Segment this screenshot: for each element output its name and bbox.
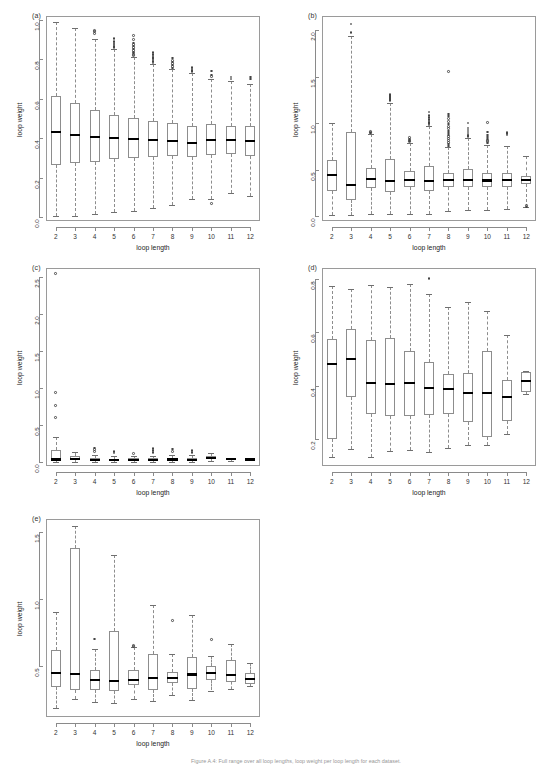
- x-axis-tick-label: 12: [516, 478, 536, 485]
- x-axis-tick: [351, 227, 352, 231]
- x-axis-tick: [172, 472, 173, 476]
- y-axis-tick-label: 0.0: [309, 216, 316, 230]
- whisker-upper: [429, 294, 430, 361]
- y-axis-tick: [39, 666, 43, 667]
- whisker-cap-upper: [445, 147, 451, 148]
- y-axis-tick-label: 2.5: [33, 276, 40, 290]
- whisker-lower: [390, 192, 391, 214]
- whisker-upper: [172, 654, 173, 672]
- whisker-cap-upper: [189, 615, 195, 616]
- whisker-cap-lower: [92, 702, 98, 703]
- x-axis-tick: [75, 723, 76, 727]
- whisker-cap-lower: [247, 686, 253, 687]
- whisker-lower: [448, 187, 449, 210]
- box-iqr[interactable]: [385, 338, 395, 416]
- box-iqr[interactable]: [226, 660, 236, 682]
- x-axis-tick: [250, 723, 251, 727]
- box-iqr[interactable]: [70, 548, 80, 690]
- x-axis-tick-label: 5: [380, 233, 400, 240]
- box-iqr[interactable]: [463, 373, 473, 422]
- box-iqr[interactable]: [443, 374, 453, 414]
- y-axis-tick: [39, 20, 43, 21]
- outlier-point: [486, 121, 489, 124]
- box-iqr[interactable]: [128, 670, 138, 685]
- y-axis-tick: [39, 462, 43, 463]
- whisker-cap-upper: [53, 437, 59, 438]
- whisker-lower: [429, 415, 430, 452]
- median-line: [482, 392, 492, 394]
- outlier-point: [132, 644, 135, 647]
- x-axis-tick: [231, 472, 232, 476]
- whisker-cap-lower: [131, 699, 137, 700]
- x-axis-tick: [231, 227, 232, 231]
- whisker-cap-upper: [523, 156, 529, 157]
- x-axis-tick: [468, 227, 469, 231]
- median-line: [167, 677, 177, 679]
- whisker-cap-lower: [131, 211, 137, 212]
- box-iqr[interactable]: [346, 132, 356, 200]
- median-line: [404, 179, 414, 181]
- y-axis-tick: [39, 599, 43, 600]
- whisker-lower: [468, 187, 469, 211]
- x-axis-tick-label: 8: [162, 478, 182, 485]
- whisker-cap-upper: [169, 69, 175, 70]
- whisker-cap-lower: [228, 193, 234, 194]
- whisker-cap-lower: [465, 210, 471, 211]
- whisker-lower: [468, 422, 469, 445]
- median-line: [424, 387, 434, 389]
- whisker-cap-lower: [92, 462, 98, 463]
- median-line: [51, 672, 61, 674]
- median-line: [206, 457, 216, 459]
- whisker-cap-upper: [504, 335, 510, 336]
- x-axis-tick-label: 11: [497, 233, 517, 240]
- whisker-cap-lower: [208, 461, 214, 462]
- median-line: [463, 179, 473, 181]
- whisker-upper: [526, 156, 527, 177]
- whisker-cap-upper: [150, 64, 156, 65]
- x-axis-tick-label: 9: [182, 478, 202, 485]
- whisker-lower: [114, 159, 115, 212]
- whisker-lower: [153, 157, 154, 208]
- x-axis-tick-label: 3: [65, 478, 85, 485]
- whisker-lower: [95, 162, 96, 214]
- whisker-upper: [153, 64, 154, 121]
- outlier-point: [171, 450, 174, 453]
- whisker-upper: [507, 335, 508, 379]
- whisker-cap-upper: [53, 22, 59, 23]
- x-axis-tick: [448, 227, 449, 231]
- whisker-cap-lower: [189, 700, 195, 701]
- x-axis-tick-label: 3: [341, 478, 361, 485]
- box-iqr[interactable]: [385, 159, 395, 193]
- box-iqr[interactable]: [463, 169, 473, 186]
- whisker-upper: [56, 612, 57, 650]
- median-line: [109, 459, 119, 461]
- y-axis-tick: [39, 532, 43, 533]
- box-iqr[interactable]: [148, 654, 158, 690]
- x-axis-tick: [390, 227, 391, 231]
- outlier-point: [486, 138, 489, 141]
- x-axis-tick-label: 10: [201, 478, 221, 485]
- box-iqr[interactable]: [327, 339, 337, 438]
- median-line: [70, 673, 80, 675]
- x-axis-tick: [250, 472, 251, 476]
- box-iqr[interactable]: [366, 340, 376, 415]
- y-axis-tick-label: 0.4: [33, 138, 40, 152]
- outlier-point: [54, 416, 57, 419]
- box-iqr[interactable]: [502, 380, 512, 421]
- outlier-point: [210, 202, 213, 205]
- whisker-upper: [487, 145, 488, 173]
- whisker-cap-upper: [72, 452, 78, 453]
- box-iqr[interactable]: [424, 166, 434, 191]
- x-axis-tick: [351, 472, 352, 476]
- box-iqr[interactable]: [51, 650, 61, 687]
- median-line: [51, 458, 61, 460]
- whisker-cap-upper: [150, 605, 156, 606]
- outlier-point: [447, 127, 450, 130]
- median-line: [443, 388, 453, 390]
- x-axis-tick-label: 8: [162, 233, 182, 240]
- whisker-upper: [75, 526, 76, 548]
- box-iqr[interactable]: [346, 329, 356, 397]
- x-axis-tick: [390, 472, 391, 476]
- median-line: [366, 178, 376, 180]
- x-axis-tick-label: 3: [65, 729, 85, 736]
